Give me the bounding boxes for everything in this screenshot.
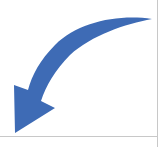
curved-arrow-icon xyxy=(0,0,163,147)
frame-right-border xyxy=(157,0,158,147)
frame-bottom-border xyxy=(0,136,158,137)
canvas xyxy=(0,0,163,147)
